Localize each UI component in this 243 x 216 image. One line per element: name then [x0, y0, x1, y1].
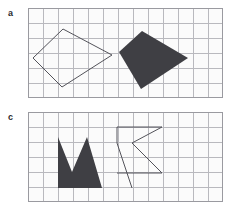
panel-c-grid-canvas: [28, 112, 223, 202]
panel-label-a: a: [8, 9, 13, 18]
panel-label-c: c: [8, 113, 13, 122]
figure-root: a: [0, 0, 243, 216]
panel-a-grid-canvas: [28, 8, 223, 98]
